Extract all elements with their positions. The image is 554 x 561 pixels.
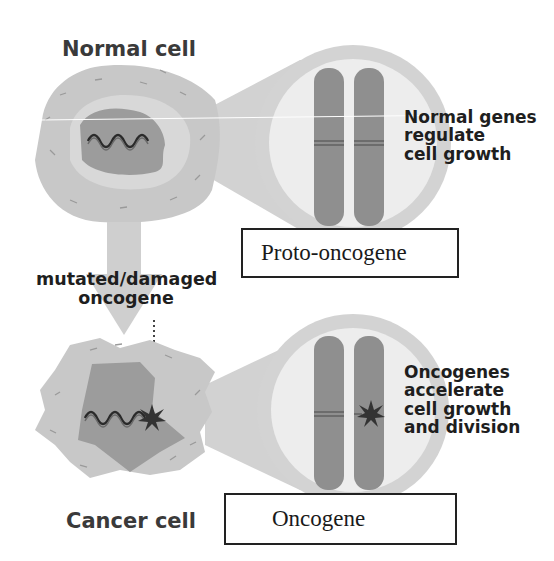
cancer-cell-graphic bbox=[35, 314, 449, 506]
normal-cell-title: Normal cell bbox=[62, 38, 196, 61]
chromosome-left-top bbox=[314, 68, 344, 226]
oncogene-box: Oncogene bbox=[224, 493, 457, 545]
chromosome-right-top bbox=[354, 68, 384, 226]
cancer-cell-title: Cancer cell bbox=[66, 510, 196, 533]
mutation-label: mutated/damaged oncogene bbox=[36, 270, 216, 308]
cancer-cell-description: Oncogenes accelerate cell growth and div… bbox=[404, 363, 520, 436]
oncogene-label: Oncogene bbox=[272, 506, 365, 532]
proto-oncogene-label: Proto-oncogene bbox=[261, 240, 407, 266]
normal-cell-description: Normal genes regulate cell growth bbox=[404, 108, 537, 163]
oncogene-diagram: Normal cell Normal genes regulate cell g… bbox=[0, 0, 554, 561]
chromosome-left-bottom bbox=[314, 336, 344, 490]
proto-oncogene-box: Proto-oncogene bbox=[241, 228, 459, 278]
